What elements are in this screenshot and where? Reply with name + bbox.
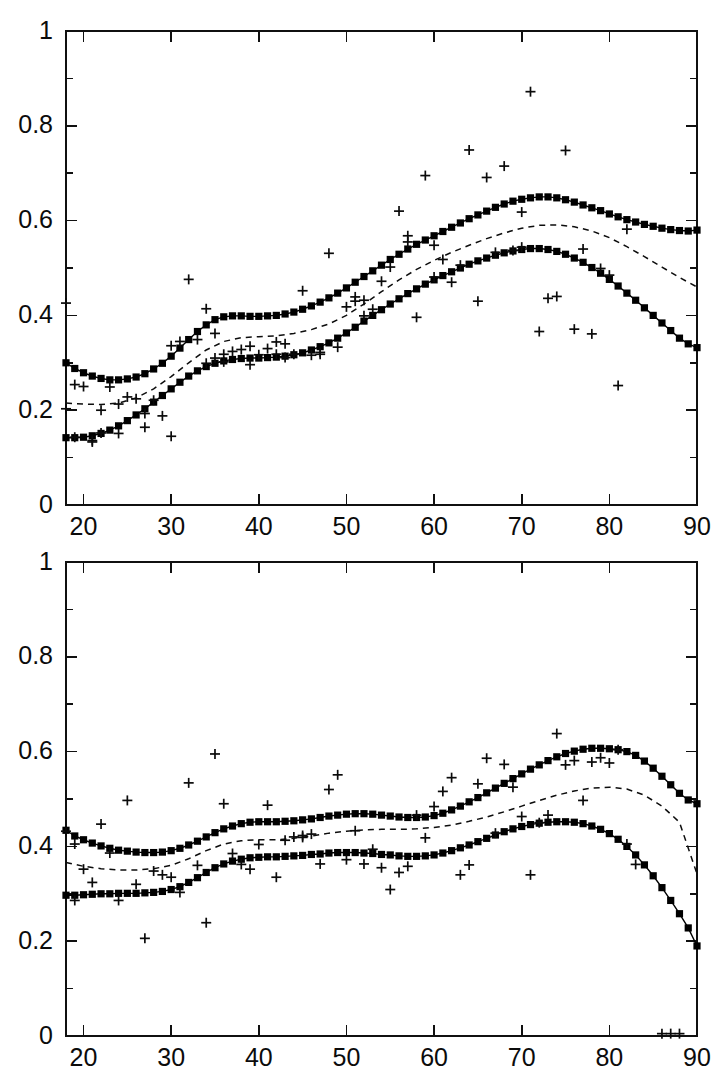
upper-band-line — [66, 197, 697, 380]
x-tick-label: 50 — [333, 1043, 361, 1071]
upper-band-marker — [273, 818, 280, 825]
observation-plus-marker — [587, 757, 597, 767]
observation-plus-marker — [333, 770, 343, 780]
upper-band-marker — [80, 836, 87, 843]
lower-band-marker — [352, 324, 359, 331]
upper-band-marker — [606, 745, 613, 752]
upper-band-marker — [299, 816, 306, 823]
upper-band-marker — [220, 313, 227, 320]
upper-band-marker — [89, 839, 96, 846]
upper-band-marker — [650, 223, 657, 230]
observation-plus-marker — [578, 244, 588, 254]
observation-plus-marker — [96, 819, 106, 829]
upper-band-marker — [404, 814, 411, 821]
upper-band-marker — [211, 829, 218, 836]
observation-plus-marker — [578, 795, 588, 805]
lower-band-marker — [632, 851, 639, 858]
observation-plus-marker — [508, 782, 518, 792]
observation-plus-marker — [552, 729, 562, 739]
lower-band-marker — [176, 379, 183, 386]
x-tick-label: 30 — [157, 512, 185, 540]
observation-plus-marker — [394, 867, 404, 877]
upper-band-marker — [246, 313, 253, 320]
upper-band-marker — [62, 359, 69, 366]
observation-plus-marker — [122, 392, 132, 402]
lower-band-marker — [474, 257, 481, 264]
lower-band-line — [66, 822, 697, 946]
upper-band-marker — [150, 849, 157, 856]
observation-plus-marker — [271, 872, 281, 882]
upper-band-marker — [334, 812, 341, 819]
lower-band-marker — [317, 850, 324, 857]
upper-band-marker — [203, 833, 210, 840]
x-tick-label: 70 — [508, 512, 536, 540]
observation-plus-marker — [333, 342, 343, 352]
lower-band-marker — [527, 245, 534, 252]
lower-band-marker — [133, 411, 140, 418]
upper-band-marker — [124, 375, 131, 382]
lower-band-marker — [124, 417, 131, 424]
upper-band-marker — [439, 810, 446, 817]
observation-plus-marker — [482, 753, 492, 763]
observation-plus-marker — [385, 885, 395, 895]
upper-band-marker — [334, 290, 341, 297]
observation-plus-marker — [298, 830, 308, 840]
lower-band-marker — [676, 910, 683, 917]
y-tick-label: 1 — [39, 547, 53, 575]
upper-band-marker — [176, 845, 183, 852]
lower-band-marker — [658, 319, 665, 326]
observation-plus-marker — [324, 248, 334, 258]
y-tick-label: 0.6 — [18, 205, 53, 233]
upper-band-marker — [606, 210, 613, 217]
observation-plus-marker — [166, 872, 176, 882]
lower-band-marker — [159, 392, 166, 399]
observation-plus-marker — [245, 864, 255, 874]
lower-band-marker — [282, 853, 289, 860]
lower-band-marker — [413, 285, 420, 292]
upper-band-marker — [676, 790, 683, 797]
observation-plus-marker — [306, 829, 316, 839]
lower-band-marker — [378, 306, 385, 313]
upper-band-marker — [229, 822, 236, 829]
observation-plus-marker — [140, 933, 150, 943]
lower-band-marker — [483, 254, 490, 261]
upper-band-marker — [141, 370, 148, 377]
upper-band-marker — [360, 810, 367, 817]
upper-band-marker — [133, 848, 140, 855]
lower-band-marker — [413, 853, 420, 860]
lower-band-marker — [194, 367, 201, 374]
upper-band-marker — [571, 199, 578, 206]
lower-band-marker — [501, 828, 508, 835]
lower-band-marker — [422, 281, 429, 288]
x-tick-label: 40 — [245, 1043, 273, 1071]
lower-band-marker — [334, 849, 341, 856]
lower-band-marker — [448, 847, 455, 854]
upper-band-marker — [387, 256, 394, 263]
x-tick-label: 50 — [333, 512, 361, 540]
observation-plus-marker — [79, 382, 89, 392]
y-tick-label: 0.2 — [18, 926, 53, 954]
lower-band-marker — [352, 849, 359, 856]
x-tick-label: 20 — [70, 512, 98, 540]
upper-band-marker — [562, 196, 569, 203]
observation-plus-marker — [271, 337, 281, 347]
observation-plus-marker — [429, 240, 439, 250]
observation-plus-marker — [201, 918, 211, 928]
upper-band-marker — [667, 226, 674, 233]
observation-plus-marker — [289, 832, 299, 842]
observation-plus-marker — [552, 291, 562, 301]
y-tick-label: 0.2 — [18, 395, 53, 423]
lower-band-marker — [457, 844, 464, 851]
lower-band-marker — [141, 889, 148, 896]
upper-band-marker — [317, 814, 324, 821]
observation-plus-marker — [482, 172, 492, 182]
upper-band-marker — [413, 241, 420, 248]
observation-plus-marker — [210, 328, 220, 338]
upper-band-marker — [325, 812, 332, 819]
lower-band-marker — [168, 886, 175, 893]
upper-band-marker — [518, 196, 525, 203]
lower-band-marker — [124, 890, 131, 897]
upper-band-marker — [211, 316, 218, 323]
upper-band-marker — [352, 279, 359, 286]
y-tick-label: 0.6 — [18, 736, 53, 764]
